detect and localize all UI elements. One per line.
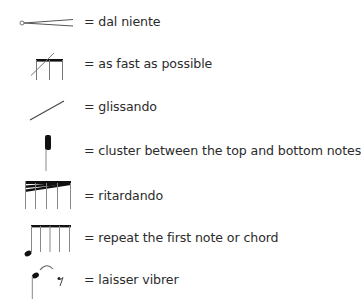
legend-label: = laisser vibrer [84,272,179,288]
legend-label: = ritardando [84,188,163,204]
legend-label: = dal niente [84,14,160,30]
legend-label: = cluster between the top and bottom not… [84,143,361,159]
cluster-note-icon [45,135,51,171]
legend-label: = glissando [84,99,157,115]
repeat-note-icon [24,225,71,258]
eighth-rest-icon [58,277,64,286]
dal-niente-icon [20,20,73,27]
legend-label: = as fast as possible [84,56,212,72]
ritardando-icon [25,181,71,209]
laisser-vibrer-icon [31,266,63,299]
slashed-beam-icon [31,53,63,80]
legend-label: = repeat the first note or chord [84,230,279,246]
glissando-icon [30,101,64,120]
